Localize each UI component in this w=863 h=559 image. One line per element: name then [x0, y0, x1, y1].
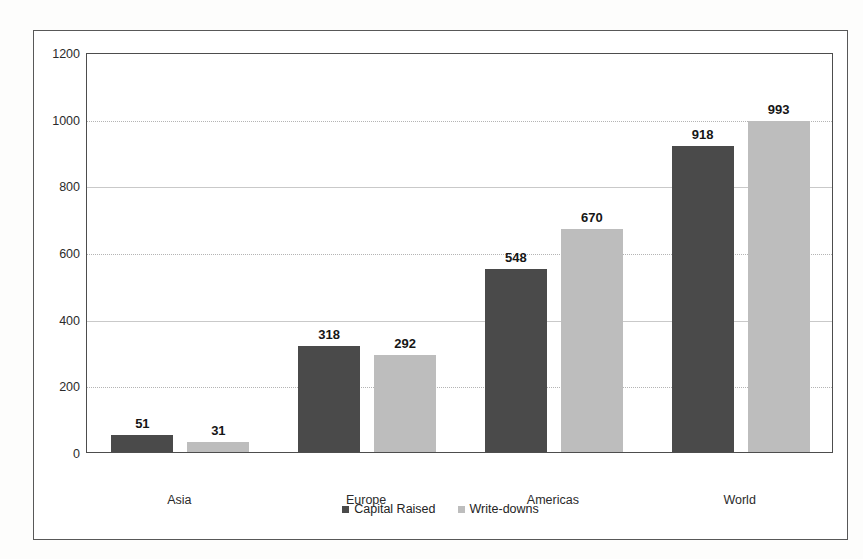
- bar-group: 5131: [87, 54, 274, 452]
- y-axis-tick-label: 400: [59, 314, 80, 328]
- chart-legend: Capital RaisedWrite-downs: [34, 502, 847, 516]
- chart-figure-frame: 020040060080010001200 513131829254867091…: [33, 30, 848, 540]
- bar-wrapper: 31: [187, 418, 249, 452]
- y-axis-tick-label: 1200: [52, 47, 80, 61]
- bar-wrapper: 993: [748, 97, 810, 452]
- bar-wrapper: 51: [111, 411, 173, 452]
- bar[interactable]: [561, 229, 623, 452]
- bar-value-label: 670: [581, 210, 603, 225]
- bar-value-label: 51: [135, 416, 149, 431]
- bar[interactable]: [748, 121, 810, 452]
- legend-swatch-icon: [342, 506, 349, 513]
- bar[interactable]: [187, 442, 249, 452]
- bar[interactable]: [374, 355, 436, 452]
- bar[interactable]: [111, 435, 173, 452]
- y-axis-tick-label: 1000: [52, 114, 80, 128]
- bar-group: 318292: [274, 54, 461, 452]
- legend-item[interactable]: Write-downs: [458, 502, 539, 516]
- bar-value-label: 31: [211, 423, 225, 438]
- legend-label: Write-downs: [470, 502, 539, 516]
- legend-item[interactable]: Capital Raised: [342, 502, 435, 516]
- legend-swatch-icon: [458, 506, 465, 513]
- bar-value-label: 918: [692, 127, 714, 142]
- y-axis-tick-label: 0: [73, 447, 80, 461]
- bar-value-label: 548: [505, 250, 527, 265]
- bar-wrapper: 670: [561, 205, 623, 452]
- bar-groups-layer: 5131318292548670918993: [87, 54, 832, 452]
- bar-wrapper: 292: [374, 331, 436, 452]
- bar-value-label: 318: [318, 327, 340, 342]
- bar-wrapper: 918: [672, 122, 734, 452]
- plot-area: 020040060080010001200 513131829254867091…: [86, 53, 833, 453]
- bar[interactable]: [672, 146, 734, 452]
- y-axis-tick-label: 800: [59, 180, 80, 194]
- bar-group: 918993: [647, 54, 834, 452]
- y-axis-tick-label: 600: [59, 247, 80, 261]
- y-axis-tick-label: 200: [59, 380, 80, 394]
- bar-wrapper: 318: [298, 322, 360, 452]
- bar[interactable]: [485, 269, 547, 452]
- bar[interactable]: [298, 346, 360, 452]
- bar-wrapper: 548: [485, 245, 547, 452]
- page-background: 020040060080010001200 513131829254867091…: [0, 0, 863, 559]
- bar-value-label: 993: [768, 102, 790, 117]
- bar-group: 548670: [461, 54, 648, 452]
- legend-label: Capital Raised: [354, 502, 435, 516]
- bar-value-label: 292: [394, 336, 416, 351]
